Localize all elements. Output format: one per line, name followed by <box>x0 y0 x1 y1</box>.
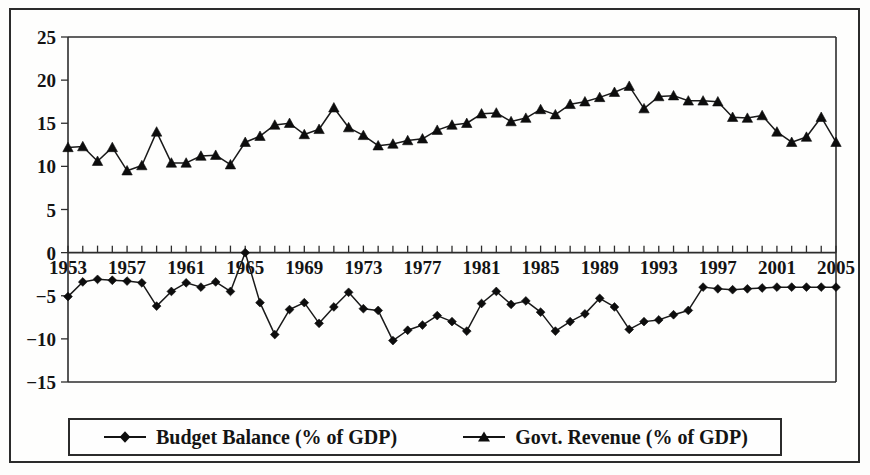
y-tick-label: −5 <box>36 286 56 307</box>
data-point-marker <box>521 113 531 122</box>
data-point-marker <box>757 110 767 119</box>
x-tick-label: 1957 <box>108 257 147 278</box>
data-point-marker <box>802 283 811 292</box>
data-point-marker <box>418 321 427 330</box>
data-point-marker <box>151 127 161 136</box>
x-tick-label: 1997 <box>699 257 738 278</box>
figure-container: 2520151050−5−10−15 195319571961196519691… <box>0 0 870 475</box>
data-point-marker <box>594 92 604 101</box>
data-point-marker <box>669 310 678 319</box>
data-point-marker <box>137 278 146 287</box>
data-point-marker <box>123 277 132 286</box>
data-point-marker <box>197 283 206 292</box>
data-point-marker <box>299 129 309 138</box>
data-point-marker <box>137 160 147 169</box>
y-tick-label: 5 <box>47 200 57 221</box>
y-tick-label: 10 <box>37 156 56 177</box>
x-tick-label: 1993 <box>640 257 678 278</box>
x-tick-label: 1989 <box>581 257 619 278</box>
x-tick-label: 1969 <box>285 257 323 278</box>
data-point-marker <box>699 283 708 292</box>
data-point-marker <box>684 306 693 315</box>
data-point-marker <box>255 131 265 140</box>
data-point-marker <box>550 109 560 118</box>
data-point-marker <box>832 283 841 292</box>
y-tick-label: 15 <box>37 113 56 134</box>
x-tick-label: 1981 <box>463 257 501 278</box>
data-point-marker <box>93 275 102 284</box>
data-point-marker <box>625 325 634 334</box>
data-point-marker <box>743 284 752 293</box>
data-point-marker <box>374 306 383 315</box>
data-point-marker <box>462 327 471 336</box>
data-point-marker <box>787 283 796 292</box>
legend-item-govt-revenue: Govt. Revenue (% of GDP) <box>461 426 748 449</box>
data-point-marker <box>654 316 663 325</box>
data-point-marker <box>817 283 826 292</box>
y-tick-label: −10 <box>26 329 56 350</box>
data-point-marker <box>816 112 826 121</box>
data-point-marker <box>284 118 294 127</box>
series-govt-revenue <box>63 81 841 175</box>
x-tick-label: 2005 <box>817 257 855 278</box>
legend-label-budget-balance: Budget Balance (% of GDP) <box>156 426 397 449</box>
data-point-marker <box>433 311 442 320</box>
data-point-marker <box>358 130 368 139</box>
x-tick-label: 1977 <box>403 257 442 278</box>
data-point-marker <box>256 298 265 307</box>
data-point-marker <box>610 303 619 312</box>
data-point-marker <box>314 124 324 133</box>
data-point-marker <box>773 283 782 292</box>
data-point-marker <box>831 137 841 146</box>
data-point-marker <box>432 125 442 134</box>
legend-marker-diamond-icon <box>102 429 148 445</box>
data-point-marker <box>122 165 132 174</box>
x-tick-label: 1973 <box>344 257 382 278</box>
data-point-marker <box>417 134 427 143</box>
y-tick-label: −15 <box>26 372 56 393</box>
legend-item-budget-balance: Budget Balance (% of GDP) <box>102 426 397 449</box>
data-series-group <box>63 81 841 345</box>
data-point-marker <box>758 284 767 293</box>
data-point-marker <box>329 103 339 112</box>
data-point-marker <box>226 287 235 296</box>
x-tick-label: 1965 <box>226 257 264 278</box>
data-point-marker <box>403 326 412 335</box>
chart-legend: Budget Balance (% of GDP) Govt. Revenue … <box>68 418 782 456</box>
axes-group <box>61 37 836 382</box>
data-point-marker <box>640 317 649 326</box>
data-point-marker <box>462 118 472 127</box>
x-tick-labels: 1953195719611965196919731977198119851989… <box>49 257 855 278</box>
data-point-marker <box>448 317 457 326</box>
x-tick-label: 2001 <box>758 257 796 278</box>
chart-area: 2520151050−5−10−15 195319571961196519691… <box>0 0 870 475</box>
data-point-marker <box>225 159 235 168</box>
data-point-marker <box>713 284 722 293</box>
data-point-marker <box>240 137 250 146</box>
data-point-marker <box>728 285 737 294</box>
data-point-marker <box>270 330 279 339</box>
y-tick-label: 20 <box>37 70 56 91</box>
data-point-marker <box>535 104 545 113</box>
x-tick-label: 1961 <box>167 257 205 278</box>
legend-marker-triangle-icon <box>461 429 507 445</box>
chart-plot-svg: 2520151050−5−10−15 195319571961196519691… <box>0 0 870 475</box>
data-point-marker <box>786 137 796 146</box>
x-tick-label: 1985 <box>522 257 560 278</box>
y-tick-labels: 2520151050−5−10−15 <box>26 27 56 393</box>
data-point-marker <box>566 317 575 326</box>
data-point-marker <box>211 278 220 287</box>
y-tick-label: 25 <box>37 27 56 48</box>
data-point-marker <box>182 278 191 287</box>
data-point-marker <box>609 87 619 96</box>
data-point-marker <box>107 142 117 151</box>
x-tick-label: 1953 <box>49 257 87 278</box>
legend-label-govt-revenue: Govt. Revenue (% of GDP) <box>515 426 748 449</box>
data-point-marker <box>285 305 294 314</box>
data-point-marker <box>389 336 398 345</box>
data-point-marker <box>624 81 634 90</box>
